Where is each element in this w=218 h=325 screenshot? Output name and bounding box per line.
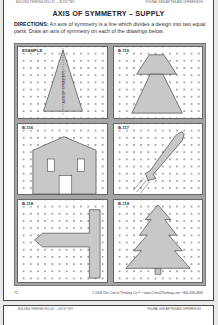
axis-of-symmetry-label: AXIS OF SYMMETRY [62, 70, 66, 103]
directions: DIRECTIONS: An axis of symmetry is a lin… [14, 21, 206, 35]
rocket-figure [114, 124, 202, 194]
panel-label: B-115 [117, 48, 130, 53]
triangle-figure: AXIS OF SYMMETRY [18, 47, 107, 118]
panel-label: B-116 [21, 125, 34, 130]
house-figure [18, 124, 107, 194]
header-section-title: FIGURAL SIMILARITIES AND DIFFERENCES [146, 1, 203, 4]
header-book-title: BUILDING THINKING SKILLS® — BOOK TWO [16, 1, 75, 4]
panel-example: AXIS OF SYMMETRY EXAMPLE [17, 46, 108, 119]
panel-label: B-117 [117, 125, 130, 130]
worksheet-page: BUILDING THINKING SKILLS® — BOOK TWO FIG… [3, 0, 214, 301]
page-number: 72 [14, 291, 18, 295]
panel-label: EXAMPLE [21, 48, 43, 53]
copyright-footer: © 2006 The Critical Thinking Co.™ • www.… [92, 291, 203, 295]
next-header-book-title: BUILDING THINKING SKILLS® — BOOK TWO [18, 308, 73, 311]
panel-label: B-118 [21, 201, 34, 206]
panel-b115: B-115 [113, 46, 203, 119]
next-page-top: BUILDING THINKING SKILLS® — BOOK TWO FIG… [3, 305, 214, 325]
stacked-trapezoids-figure [114, 47, 202, 118]
panel-b117: B-117 [113, 123, 203, 195]
page-title: AXIS OF SYMMETRY – SUPPLY [4, 9, 213, 18]
next-header-section-title: FIGURAL SIMILARITIES AND DIFFERENCES [147, 308, 201, 311]
panel-label: B-119 [117, 201, 130, 206]
pine-tree-figure [114, 200, 202, 282]
panel-b116: B-116 [17, 123, 108, 195]
exercise-frame: AXIS OF SYMMETRY EXAMPLE B-115 B-116 [14, 43, 206, 286]
panel-b119: B-119 [113, 199, 203, 283]
directions-label: DIRECTIONS: [14, 21, 48, 27]
sideways-t-figure [18, 200, 107, 282]
panel-b118: B-118 [17, 199, 108, 283]
